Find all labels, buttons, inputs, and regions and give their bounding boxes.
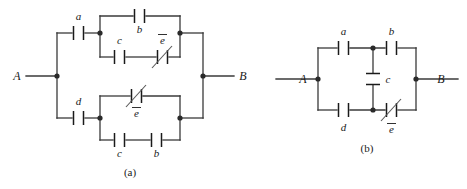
capacitor-b-b	[387, 41, 397, 55]
figure-canvas: A B a b c e d e c b (a)	[0, 0, 467, 189]
label-terminal-b-right: B	[239, 69, 247, 83]
node-terminal-b	[200, 73, 205, 78]
caption-b: (b)	[361, 142, 374, 155]
node-terminal-a	[54, 73, 59, 78]
node-upper-right-a	[177, 30, 182, 35]
capacitor-a-d	[74, 111, 84, 125]
caption-a: (a)	[124, 166, 137, 179]
label-terminal-a-left: A	[12, 69, 21, 83]
capacitor-a-b-lower	[152, 133, 162, 147]
label-cap-b-ebar-group: e	[387, 123, 396, 135]
capacitor-a-a	[74, 26, 84, 40]
label-cap-a-ebar-upper-group: e	[158, 34, 167, 46]
label-cap-a-d: d	[76, 95, 82, 107]
circuit-a-group: A B a b c e d e c b (a)	[12, 9, 247, 179]
node-terminal-b-b	[413, 76, 418, 81]
node-lower-right-a	[177, 115, 182, 120]
label-cap-b-b: b	[389, 25, 395, 37]
label-cap-b-a: a	[341, 25, 347, 37]
label-terminal-b-right-b: B	[437, 72, 445, 86]
label-terminal-a-left-b: A	[298, 72, 307, 86]
capacitor-b-c	[366, 74, 380, 85]
node-terminal-a-b	[315, 76, 320, 81]
label-cap-a-e-upper: e	[160, 34, 165, 46]
node-center-top-b	[370, 45, 375, 50]
label-cap-a-b-lower: b	[154, 147, 160, 159]
circuit-diagram-svg: A B a b c e d e c b (a)	[0, 0, 467, 189]
label-cap-b-c: c	[386, 73, 391, 85]
capacitor-a-c-upper	[115, 50, 125, 64]
label-cap-a-b-top: b	[137, 23, 143, 35]
capacitor-a-b-top	[135, 9, 145, 23]
label-cap-a-c-lower: c	[117, 147, 122, 159]
label-cap-b-d: d	[341, 121, 347, 133]
label-cap-a-ebar-lower-group: e	[132, 107, 141, 119]
node-center-bottom-b	[370, 107, 375, 112]
node-upper-left-a	[97, 30, 102, 35]
capacitor-b-a	[339, 41, 349, 55]
circuit-b-group: A B a b c d e (b)	[276, 25, 458, 155]
label-cap-a-c-upper: c	[117, 34, 122, 46]
label-cap-a-a: a	[76, 10, 82, 22]
label-cap-a-e-lower: e	[134, 107, 139, 119]
label-cap-b-e: e	[389, 123, 394, 135]
node-lower-left-a	[97, 115, 102, 120]
capacitor-a-c-lower	[115, 133, 125, 147]
capacitor-b-d	[339, 103, 349, 117]
